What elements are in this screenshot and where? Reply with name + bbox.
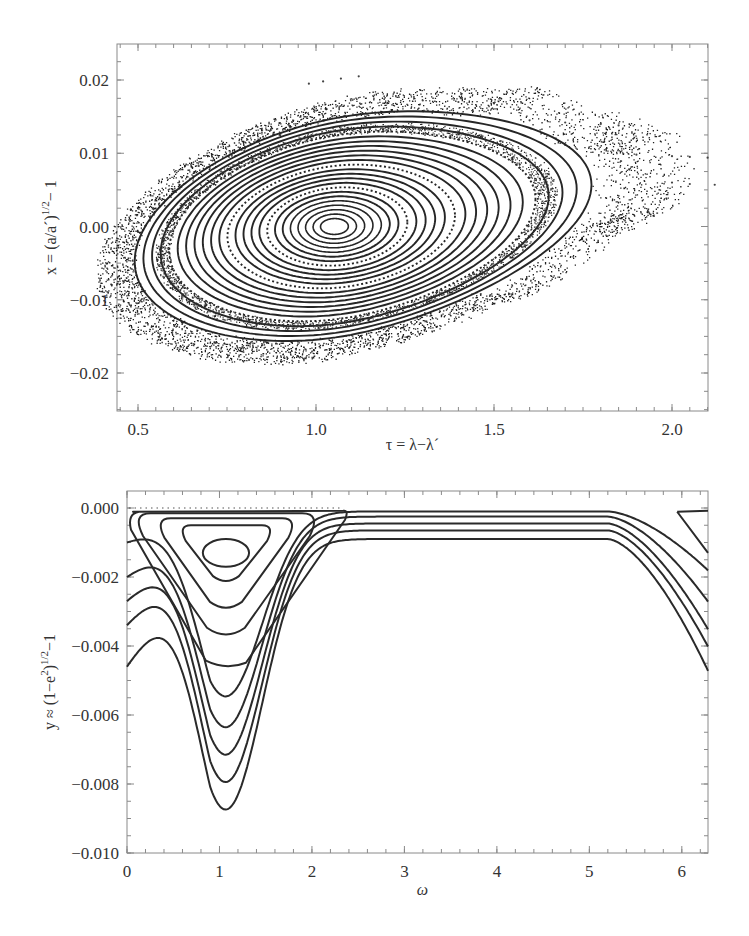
- x-tick-label: 6: [678, 862, 687, 881]
- libration-curve: [203, 539, 249, 567]
- libration-curve: [183, 525, 270, 581]
- x-tick-label: 3: [400, 862, 409, 881]
- y-tick-label: −0.006: [71, 706, 119, 725]
- y-tick-label: −0.010: [71, 844, 119, 863]
- escape-point: [493, 102, 495, 104]
- x-tick-label: 1.5: [483, 420, 504, 439]
- invariant-curve: [321, 219, 349, 235]
- escape-point: [308, 83, 310, 85]
- x-tick-label: 2: [308, 862, 317, 881]
- escape-point: [618, 124, 620, 126]
- y-tick-label: −0.008: [71, 775, 119, 794]
- invariant-curve: [298, 205, 373, 248]
- x-axis-label: ω: [417, 881, 428, 898]
- escape-point: [714, 184, 716, 186]
- y-tick-label: −0.004: [71, 637, 119, 656]
- y-axis-label: y ≈ (1−e2)1/2−1: [38, 634, 59, 730]
- escape-point: [422, 99, 424, 101]
- y-tick-label: −0.01: [70, 291, 109, 310]
- x-tick-label: 1: [215, 862, 224, 881]
- x-axis-label: τ = λ−λ´: [386, 436, 439, 453]
- poincare-points: [97, 75, 716, 365]
- y-axis-label: x = (a/a´)1/2− 1: [39, 180, 60, 275]
- escape-point: [322, 80, 324, 82]
- circulation-curve: [127, 517, 708, 728]
- escape-point: [671, 155, 673, 157]
- phase-portrait-chart: 01234560.000−0.002−0.004−0.006−0.008−0.0…: [0, 460, 749, 936]
- invariant-curve: [267, 187, 407, 265]
- y-tick-label: 0.000: [81, 499, 119, 518]
- escape-point: [600, 123, 602, 125]
- invariant-curve: [275, 192, 399, 261]
- y-tick-label: −0.02: [70, 364, 109, 383]
- invariant-curve: [290, 201, 381, 252]
- x-tick-label: 4: [493, 862, 502, 881]
- escape-point: [358, 75, 360, 77]
- y-tick-label: 0.02: [79, 71, 109, 90]
- escape-point: [707, 157, 709, 159]
- poincare-section-chart: 0.51.01.52.00.020.010.00−0.01−0.02τ = λ−…: [0, 0, 749, 460]
- poincare-section-plot: 0.51.01.52.00.020.010.00−0.01−0.02τ = λ−…: [0, 0, 749, 460]
- circulation-curve: [127, 524, 708, 755]
- escape-point: [635, 154, 637, 156]
- escape-point: [564, 121, 566, 123]
- x-tick-label: 2.0: [661, 420, 682, 439]
- invariant-curve: [161, 127, 549, 327]
- y-tick-label: 0.00: [79, 218, 109, 237]
- escape-point: [671, 181, 673, 183]
- escape-point: [689, 156, 691, 158]
- phase-curves: [127, 508, 708, 810]
- x-tick-label: 5: [585, 862, 594, 881]
- y-tick-label: 0.01: [79, 144, 109, 163]
- escape-point: [689, 183, 691, 185]
- x-tick-label: 0.5: [127, 420, 148, 439]
- phase-portrait-plot: 01234560.000−0.002−0.004−0.006−0.008−0.0…: [0, 460, 749, 936]
- escape-point: [529, 119, 531, 121]
- x-tick-label: 0: [123, 862, 132, 881]
- escape-point: [457, 101, 459, 103]
- x-tick-label: 1.0: [305, 420, 326, 439]
- escape-point: [340, 77, 342, 79]
- y-tick-label: −0.002: [71, 568, 119, 587]
